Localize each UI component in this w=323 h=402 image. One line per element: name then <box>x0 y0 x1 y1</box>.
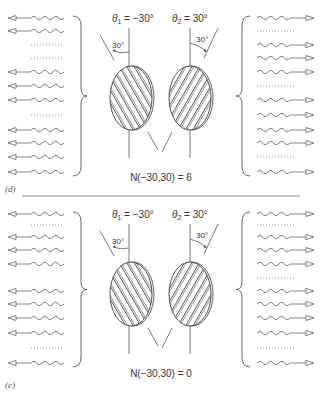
wave-icon <box>31 16 64 19</box>
arrow-left-icon <box>8 141 16 146</box>
wave-icon <box>31 316 64 319</box>
wave-icon <box>31 128 64 131</box>
brace-right-group <box>236 212 250 367</box>
panel-tag: (e) <box>5 380 15 390</box>
wave-icon <box>257 316 290 319</box>
arrow-right-icon <box>306 331 314 336</box>
arrow-right-icon <box>306 16 314 21</box>
wave-icon <box>257 70 290 73</box>
photon-right <box>257 361 314 366</box>
angle1-label: 30° <box>112 237 124 246</box>
wave-icon <box>31 262 64 265</box>
wave-icon <box>257 170 290 173</box>
wave-icon <box>257 248 290 251</box>
arrow-left-icon <box>8 289 16 294</box>
arrow-right-icon <box>306 128 314 133</box>
photon-left <box>8 331 64 336</box>
arrow-right-icon <box>306 302 314 307</box>
panel-e: θ1 = −30°θ2 = 30°30°30°N(−30,30) = 0(e) <box>5 209 314 390</box>
arrow-left-icon <box>8 155 16 160</box>
arrow-right-icon <box>306 113 314 118</box>
photon-left <box>8 262 64 267</box>
photon-right <box>257 16 314 21</box>
wave-icon <box>31 212 64 215</box>
wave-icon <box>257 113 290 116</box>
arrow-right-icon <box>306 43 314 48</box>
photon-left <box>8 302 64 307</box>
wave-icon <box>257 56 290 59</box>
photon-right <box>257 113 314 118</box>
photon-right <box>257 302 314 307</box>
coincidence-count-label: N(−30,30) = 0 <box>130 368 192 379</box>
arrow-left-icon <box>8 262 16 267</box>
panel-tag: (d) <box>5 184 16 194</box>
arrow-right-icon <box>306 235 314 240</box>
wave-icon <box>31 141 64 144</box>
wave-icon <box>257 212 290 215</box>
brace-left-group <box>73 212 87 367</box>
arrow-right-icon <box>306 361 314 366</box>
wave-icon <box>31 155 64 158</box>
theta2-label: θ2 = 30° <box>172 209 208 221</box>
arrow-right-icon <box>306 212 314 217</box>
photon-right <box>257 141 314 146</box>
photon-right <box>257 128 314 133</box>
wave-icon <box>257 331 290 334</box>
angle2-label: 30° <box>196 231 208 240</box>
photon-left <box>8 248 64 253</box>
theta1-label: θ1 = −30° <box>112 13 154 25</box>
arrow-right-icon <box>306 248 314 253</box>
photon-right <box>257 248 314 253</box>
arrow-left-icon <box>8 170 16 175</box>
arrow-right-icon <box>306 98 314 103</box>
arrow-left-icon <box>8 235 16 240</box>
photon-left <box>8 128 64 133</box>
arrow-left-icon <box>8 302 16 307</box>
arrow-right-icon <box>306 262 314 267</box>
photon-right <box>257 170 314 175</box>
wave-icon <box>257 43 290 46</box>
arrow-left-icon <box>8 29 16 34</box>
photon-left <box>8 316 64 321</box>
photon-left <box>8 70 64 75</box>
photon-right <box>257 289 314 294</box>
arrow-right-icon <box>306 289 314 294</box>
wave-icon <box>31 289 64 292</box>
arrow-left-icon <box>8 128 16 133</box>
arrow-right-icon <box>306 70 314 75</box>
photon-left <box>8 141 64 146</box>
wave-icon <box>31 84 64 87</box>
arrow-left-icon <box>8 84 16 89</box>
angle-arc-2 <box>190 43 206 51</box>
brace-left-group <box>73 16 87 176</box>
photon-right <box>257 262 314 267</box>
angle1-label: 30° <box>112 41 124 50</box>
photon-left <box>8 212 64 217</box>
arrow-left-icon <box>8 98 16 103</box>
wave-icon <box>31 170 64 173</box>
photon-right <box>257 316 314 321</box>
wave-icon <box>31 70 64 73</box>
photon-left <box>8 235 64 240</box>
theta1-label: θ1 = −30° <box>112 209 154 221</box>
arrow-right-icon <box>306 56 314 61</box>
wave-icon <box>257 302 290 305</box>
arrow-right-icon <box>306 316 314 321</box>
wave-icon <box>257 289 290 292</box>
wave-icon <box>257 98 290 101</box>
arrow-right-icon <box>306 141 314 146</box>
arrow-right-icon <box>306 170 314 175</box>
polarizer-correlation-diagram: θ1 = −30°θ2 = 30°30°30°N(−30,30) = 6(d) … <box>0 0 323 402</box>
wave-icon <box>31 331 64 334</box>
arrow-left-icon <box>8 212 16 217</box>
photon-left <box>8 361 64 366</box>
wave-icon <box>31 302 64 305</box>
photon-right <box>257 43 314 48</box>
arrow-left-icon <box>8 16 16 21</box>
wave-icon <box>31 235 64 238</box>
wave-icon <box>31 98 64 101</box>
arrow-left-icon <box>8 70 16 75</box>
photon-left <box>8 289 64 294</box>
angle-arc-2 <box>190 239 206 247</box>
panel-d: θ1 = −30°θ2 = 30°30°30°N(−30,30) = 6(d) <box>5 13 314 194</box>
